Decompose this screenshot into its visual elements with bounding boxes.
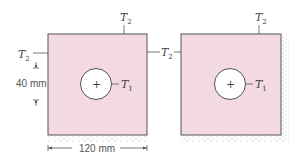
right-top-label: T2 (255, 11, 267, 26)
middle-side-label: T2 (161, 46, 173, 61)
vertical-dimension: 40 mm (16, 62, 47, 106)
left-side-label: T2 (18, 48, 30, 63)
right-panel: + T1 T2 (181, 11, 289, 142)
left-panel: + T1 T2 T2 T2 40 mm 120 mm (16, 11, 181, 154)
left-center-mark: + (92, 78, 101, 91)
left-top-label: T2 (120, 11, 132, 26)
right-center-mark: + (226, 78, 235, 91)
right-insulation-bottom (181, 135, 289, 142)
vertical-dimension-label: 40 mm (16, 78, 47, 89)
right-insulation-side (281, 34, 289, 135)
horizontal-dimension-label: 120 mm (79, 143, 115, 154)
diagram-canvas: + T1 T2 T2 T2 40 mm 120 mm (0, 0, 308, 163)
horizontal-dimension: 120 mm (48, 143, 147, 154)
left-insulation-bottom (48, 135, 148, 142)
